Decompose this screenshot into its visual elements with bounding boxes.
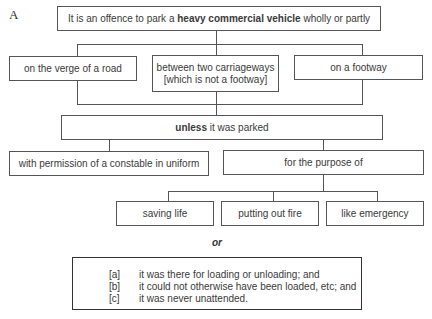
- condition-text: it was never unattended.: [139, 293, 248, 304]
- exception-constable: with permission of a constable in unifor…: [9, 151, 209, 176]
- purpose-saving-life: saving life: [116, 201, 214, 226]
- location-note: [which is not a footway]: [164, 74, 267, 86]
- purpose-label: putting out fire: [238, 208, 301, 220]
- exception-purpose: for the purpose of: [223, 150, 424, 175]
- purpose-label: like emergency: [341, 208, 408, 220]
- unless-keyword: unless: [175, 122, 207, 133]
- location-footway: on a footway: [294, 55, 423, 80]
- connector: [377, 191, 378, 201]
- offence-suffix: wholly or partly: [301, 13, 370, 24]
- connector: [323, 140, 324, 150]
- condition-row: [c]it was never unattended.: [109, 293, 248, 305]
- purpose-putting-out-fire: putting out fire: [221, 201, 319, 226]
- conditions-box: [a]it was there for loading or unloading…: [72, 257, 362, 310]
- or-separator: or: [206, 237, 228, 248]
- condition-text: it could not otherwise have been loaded,…: [139, 281, 356, 292]
- offence-box: It is an offence to park a heavy commerc…: [57, 6, 381, 31]
- location-label: on a footway: [330, 62, 387, 74]
- location-carriageways: between two carriageways [which is not a…: [152, 55, 279, 92]
- condition-marker: [a]: [109, 269, 139, 281]
- connector: [216, 92, 217, 115]
- connector: [77, 104, 363, 105]
- connector: [216, 31, 217, 44]
- offence-prefix: It is an offence to park a: [68, 13, 177, 24]
- location-label: on the verge of a road: [24, 63, 122, 75]
- unless-box: unless it was parked: [61, 115, 383, 140]
- offence-vehicle: heavy commercial vehicle: [177, 13, 300, 24]
- purpose-like-emergency: like emergency: [326, 201, 424, 226]
- condition-row: [a]it was there for loading or unloading…: [109, 269, 320, 281]
- location-label: between two carriageways: [157, 62, 275, 74]
- connector: [273, 191, 274, 201]
- condition-row: [b]it could not otherwise have been load…: [109, 281, 356, 293]
- purpose-label: saving life: [143, 208, 187, 220]
- connector: [77, 44, 363, 45]
- exception-label: with permission of a constable in unifor…: [19, 158, 200, 170]
- connector: [216, 44, 217, 55]
- condition-marker: [c]: [109, 293, 139, 305]
- condition-text: it was there for loading or unloading; a…: [139, 269, 320, 280]
- connector: [109, 140, 110, 151]
- connector: [168, 191, 169, 201]
- location-verge: on the verge of a road: [9, 56, 137, 81]
- exception-label: for the purpose of: [284, 157, 362, 169]
- condition-marker: [b]: [109, 281, 139, 293]
- connector: [323, 175, 324, 191]
- figure-label: A: [9, 7, 18, 23]
- unless-suffix: it was parked: [207, 122, 269, 133]
